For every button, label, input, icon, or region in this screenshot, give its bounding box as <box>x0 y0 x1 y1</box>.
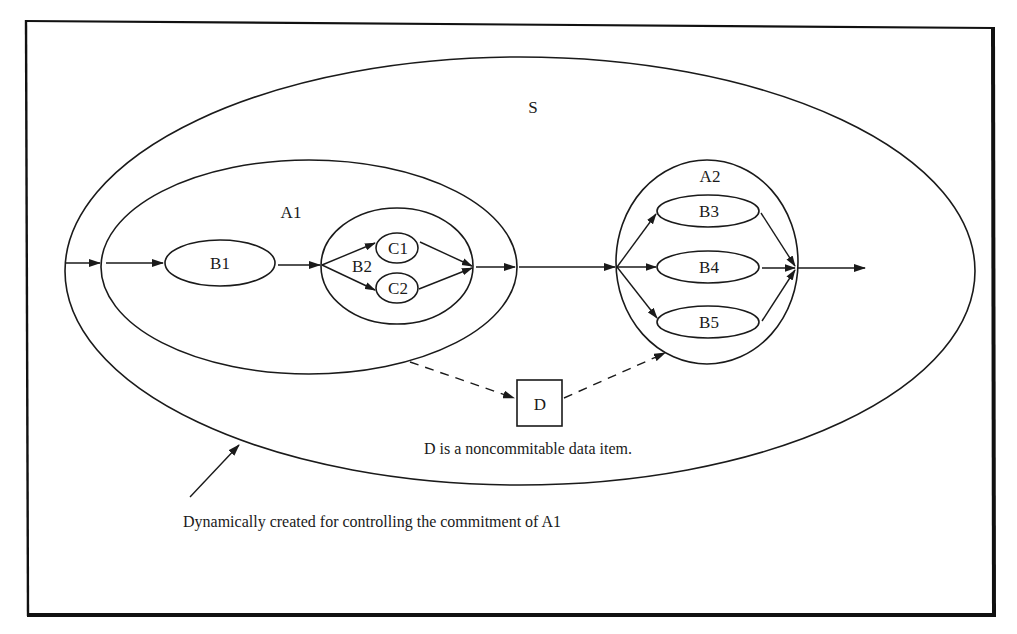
region-s-label: S <box>528 98 537 117</box>
node-c2: C2 <box>376 273 418 303</box>
node-c1-label: C1 <box>388 239 408 258</box>
arrow-b5-to-a2-exit <box>762 270 795 321</box>
frame-right <box>993 27 994 616</box>
region-a1-ellipse <box>101 160 517 374</box>
region-a2-label: A2 <box>700 167 721 186</box>
frame-top <box>25 21 993 28</box>
region-b2: B2 <box>321 208 473 324</box>
node-d-label: D <box>534 395 546 414</box>
node-b3-label: B3 <box>699 202 719 221</box>
arrow-a2-to-b5 <box>617 267 657 318</box>
region-a1-label: A1 <box>281 203 302 222</box>
solid-edges <box>65 213 865 321</box>
node-b4: B4 <box>657 251 759 283</box>
region-a1: A1 <box>101 160 517 374</box>
dashed-edges <box>410 353 665 398</box>
node-b5: B5 <box>657 306 759 338</box>
annotation-d-note: D is a noncommitable data item. <box>424 440 632 457</box>
arrow-c1-to-b2-exit <box>420 242 472 266</box>
node-b1: B1 <box>165 240 275 286</box>
node-b5-label: B5 <box>699 313 719 332</box>
node-c2-label: C2 <box>388 279 408 298</box>
frame-left <box>26 20 28 616</box>
node-d: D <box>517 380 562 426</box>
region-s-ellipse <box>65 57 975 485</box>
node-c1: C1 <box>376 233 418 263</box>
region-b2-label: B2 <box>352 257 372 276</box>
region-s: S <box>65 57 975 485</box>
node-b4-label: B4 <box>699 258 719 277</box>
pointer-arrow-to-s <box>190 445 239 497</box>
diagram-canvas: S A1 B1 B2 C1 C2 A2 B3 B4 B5 D <box>0 0 1017 634</box>
node-b1-label: B1 <box>210 254 230 273</box>
annotation-s-note: Dynamically created for controlling the … <box>183 513 561 531</box>
node-b3: B3 <box>657 195 759 227</box>
arrow-a1-to-d-dashed <box>410 362 514 398</box>
arrow-d-to-a2-dashed <box>564 353 665 398</box>
region-b2-ellipse <box>321 208 473 324</box>
arrow-c2-to-b2-exit <box>419 268 472 289</box>
